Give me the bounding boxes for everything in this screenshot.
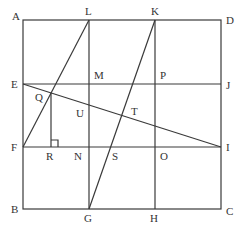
label-c: C — [226, 205, 233, 217]
label-e: E — [11, 78, 18, 90]
diagram-canvas: A L K D E M P J Q U T F R N S O I B G H … — [0, 0, 242, 233]
label-d: D — [226, 14, 234, 26]
label-j: J — [226, 79, 231, 91]
geometry-diagram: A L K D E M P J Q U T F R N S O I B G H … — [0, 0, 242, 233]
label-b: B — [11, 203, 18, 215]
right-angle-marker — [51, 140, 58, 147]
label-r: R — [46, 150, 54, 162]
label-h: H — [150, 212, 158, 224]
label-q: Q — [35, 91, 43, 103]
label-s: S — [112, 150, 118, 162]
label-k: K — [151, 5, 159, 17]
label-n: N — [74, 150, 82, 162]
label-p: P — [160, 69, 166, 81]
segment-gk — [89, 20, 155, 209]
segment-ei — [23, 84, 221, 147]
label-f: F — [11, 141, 17, 153]
label-t: T — [131, 105, 138, 117]
label-m: M — [94, 69, 104, 81]
label-o: O — [160, 150, 168, 162]
label-l: L — [85, 5, 92, 17]
label-u: U — [76, 107, 84, 119]
label-i: I — [226, 141, 230, 153]
label-a: A — [12, 10, 20, 22]
label-g: G — [84, 212, 92, 224]
